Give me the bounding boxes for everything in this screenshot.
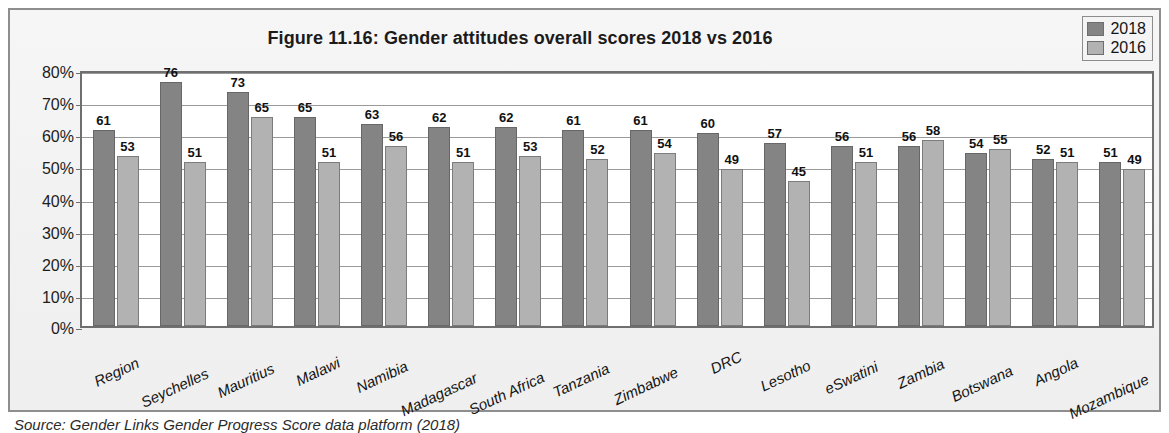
x-axis-category-label: eSwatini — [822, 358, 881, 397]
bar-2016[interactable] — [385, 146, 407, 326]
x-axis-category-label: Namibia — [353, 357, 410, 396]
x-axis-category-label: Angola — [1031, 354, 1081, 389]
bar-group: 6253 — [485, 73, 552, 326]
bar-value-label: 63 — [355, 108, 389, 121]
x-axis-category-label: Zambia — [894, 355, 947, 392]
bar-2016[interactable] — [721, 169, 743, 326]
bar-2016[interactable] — [922, 140, 944, 326]
x-axis-category-label: South Africa — [466, 368, 547, 418]
bar-2016[interactable] — [251, 117, 273, 326]
bar-2016[interactable] — [855, 162, 877, 326]
bar-value-label: 55 — [983, 133, 1017, 146]
y-axis-tick-label: 60% — [14, 128, 74, 146]
legend-item[interactable]: 2018 — [1087, 19, 1146, 38]
bar-value-label: 53 — [111, 140, 145, 153]
bar-value-label: 65 — [288, 101, 322, 114]
x-axis-category-text: Angola — [1031, 354, 1081, 389]
bar-2018[interactable] — [1099, 162, 1121, 326]
bar-2018[interactable] — [898, 146, 920, 326]
bars-layer: 6153765173656551635662516253615261546049… — [82, 73, 1152, 326]
bar-value-label: 49 — [1117, 153, 1151, 166]
bar-2018[interactable] — [361, 124, 383, 326]
x-axis-category-label: Tanzania — [550, 360, 612, 401]
chart-frame: Figure 11.16: Gender attitudes overall s… — [8, 8, 1161, 412]
x-axis-category-text: Lesotho — [757, 357, 813, 395]
bar-group: 6551 — [283, 73, 350, 326]
bar-2018[interactable] — [160, 82, 182, 326]
x-axis-category-text: Botswana — [949, 362, 1016, 405]
plot-area: 0%10%20%30%40%50%60%70%80% 6153765173656… — [80, 71, 1154, 328]
legend-item[interactable]: 2016 — [1087, 38, 1146, 57]
x-axis-category-text: Zimbabwe — [610, 363, 680, 408]
bar-2016[interactable] — [989, 149, 1011, 326]
y-axis-tick-label: 40% — [14, 193, 74, 211]
bar-value-label: 73 — [221, 76, 255, 89]
bar-2016[interactable] — [184, 162, 206, 326]
x-axis-category-label: Region — [91, 354, 141, 390]
x-axis-category-label: Zimbabwe — [610, 363, 680, 408]
x-axis-category-text: Tanzania — [550, 360, 612, 401]
bar-2018[interactable] — [562, 130, 584, 326]
bar-2018[interactable] — [1032, 159, 1054, 326]
y-axis-tick-label: 50% — [14, 160, 74, 178]
x-axis-labels: RegionSeychellesMauritiusMalawiNamibiaMa… — [80, 328, 1154, 414]
y-axis-tick-label: 0% — [14, 320, 74, 338]
legend-swatch-icon — [1087, 22, 1104, 36]
x-axis-category-label: Seychelles — [138, 365, 211, 411]
bar-value-label: 52 — [580, 143, 614, 156]
bar-value-label: 56 — [825, 130, 859, 143]
x-axis-category-label: DRC — [707, 348, 744, 377]
x-axis-category-label: Botswana — [949, 362, 1016, 405]
bar-value-label: 76 — [154, 66, 188, 79]
bar-2018[interactable] — [965, 153, 987, 326]
bar-group: 6153 — [82, 73, 149, 326]
bar-2018[interactable] — [495, 127, 517, 326]
y-axis-tick-label: 70% — [14, 96, 74, 114]
x-axis-category-label: Mauritius — [214, 360, 276, 401]
chart-title: Figure 11.16: Gender attitudes overall s… — [10, 28, 1030, 49]
bar-2016[interactable] — [519, 156, 541, 326]
bar-value-label: 61 — [556, 114, 590, 127]
legend-swatch-icon — [1087, 41, 1104, 55]
chart-page: Figure 11.16: Gender attitudes overall s… — [0, 0, 1169, 433]
bar-value-label: 61 — [624, 114, 658, 127]
bar-2016[interactable] — [1123, 169, 1145, 326]
bar-value-label: 56 — [379, 130, 413, 143]
bar-group: 5455 — [955, 73, 1022, 326]
bar-value-label: 51 — [849, 146, 883, 159]
bar-2016[interactable] — [1056, 162, 1078, 326]
bar-group: 7651 — [149, 73, 216, 326]
bar-2016[interactable] — [452, 162, 474, 326]
bar-group: 6251 — [418, 73, 485, 326]
bar-value-label: 62 — [422, 111, 456, 124]
x-axis-category-label: Mozambique — [1067, 370, 1152, 422]
y-axis-tick-label: 80% — [14, 64, 74, 82]
x-axis-category-text: Mauritius — [214, 360, 276, 401]
x-axis-category-text: Madagascar — [398, 369, 480, 419]
bar-2016[interactable] — [654, 153, 676, 326]
x-axis-category-text: Seychelles — [138, 365, 211, 411]
bar-group: 6049 — [686, 73, 753, 326]
bar-group: 5651 — [820, 73, 887, 326]
bar-group: 5658 — [888, 73, 955, 326]
x-axis-category-text: South Africa — [466, 368, 547, 418]
bar-value-label: 65 — [245, 101, 279, 114]
bar-2016[interactable] — [117, 156, 139, 326]
bar-value-label: 45 — [782, 165, 816, 178]
bar-2016[interactable] — [788, 181, 810, 326]
x-axis-category-label: Madagascar — [398, 369, 480, 419]
bar-2018[interactable] — [831, 146, 853, 326]
x-axis-category-text: Zambia — [894, 355, 947, 392]
y-axis-tick-label: 30% — [14, 225, 74, 243]
bar-2016[interactable] — [318, 162, 340, 326]
bar-2016[interactable] — [586, 159, 608, 326]
bar-value-label: 49 — [715, 153, 749, 166]
bar-2018[interactable] — [93, 130, 115, 326]
legend-item-label: 2016 — [1110, 40, 1146, 56]
bar-group: 5251 — [1022, 73, 1089, 326]
bar-2018[interactable] — [630, 130, 652, 326]
source-caption: Source: Gender Links Gender Progress Sco… — [14, 416, 460, 433]
x-axis-category-text: Namibia — [353, 357, 410, 396]
bar-2018[interactable] — [227, 92, 249, 327]
bar-value-label: 54 — [648, 137, 682, 150]
